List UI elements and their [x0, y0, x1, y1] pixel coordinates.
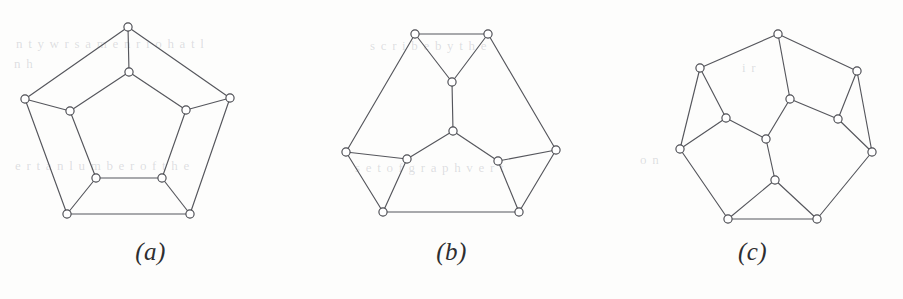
graph-edge [190, 98, 230, 214]
graph-edge [162, 178, 190, 214]
vertex-group [342, 30, 560, 216]
figure-caption: (a) [0, 238, 301, 266]
graph-vertex-outer-bottom-left [63, 210, 71, 218]
graph-vertex-inner-upper-left [722, 114, 730, 122]
figure-caption: (c) [602, 238, 903, 266]
graph-edge [383, 159, 407, 212]
graph-vertex-inner-center [762, 135, 770, 143]
graph-vertex-outer-right [552, 146, 560, 154]
graph-edge [452, 82, 453, 131]
heptagonal-dodecahedral-graph [602, 0, 903, 240]
graph-edge [70, 111, 96, 178]
graph-edge [519, 150, 556, 212]
graph-vertex-outer-left [676, 145, 684, 153]
graph-edge [129, 72, 186, 110]
graph-edge [128, 27, 129, 72]
graph-vertex-inner-top [125, 68, 133, 76]
graph-vertex-inner-left [66, 107, 74, 115]
graph-edge [407, 131, 453, 159]
graph-vertex-outer-top [774, 30, 782, 38]
graph-edge [67, 178, 96, 214]
graph-vertex-outer-top [124, 23, 132, 31]
graph-vertex-inner-right [182, 106, 190, 114]
graph-edge [498, 161, 519, 212]
graph-edge [488, 34, 556, 150]
graph-vertex-outer-right [226, 94, 234, 102]
vertex-group [21, 23, 234, 218]
graph-edge [726, 118, 766, 139]
graph-edge [700, 34, 778, 68]
graph-vertex-inner-left [403, 155, 411, 163]
graph-vertex-inner-bottom-left [92, 174, 100, 182]
edge-group [346, 34, 556, 212]
graph-edge [452, 34, 488, 82]
graph-vertex-inner-upper [786, 95, 794, 103]
panel-a: (a) [0, 0, 301, 299]
graph-edge [25, 99, 70, 111]
pentagonal-prism-graph [0, 0, 301, 240]
graph-edge [25, 27, 128, 99]
graph-vertex-outer-left [342, 148, 350, 156]
graph-vertex-outer-bottom-left [379, 208, 387, 216]
panel-b: (b) [301, 0, 602, 299]
graph-edge [346, 34, 415, 152]
graph-edge [25, 99, 67, 214]
graph-vertex-outer-bottom-left [724, 215, 732, 223]
graph-edge [680, 68, 700, 149]
graph-vertex-outer-bottom-right [515, 208, 523, 216]
panel-c: (c) [602, 0, 903, 299]
graph-vertex-outer-bottom-right [186, 210, 194, 218]
graph-edge [498, 150, 556, 161]
graph-edge [817, 152, 872, 219]
graph-edge [128, 27, 230, 98]
graph-vertex-inner-lower [771, 176, 779, 184]
graph-vertex-inner-top [448, 78, 456, 86]
graph-vertex-outer-upper-left [696, 64, 704, 72]
graph-vertex-outer-upper-right [853, 67, 861, 75]
graph-edge [728, 180, 775, 219]
figure-plate: n t y w r s a m e n r i o h a t ln he r … [0, 0, 903, 299]
graph-edge [766, 139, 775, 180]
graph-edge [680, 149, 728, 219]
graph-edge [790, 99, 838, 119]
graph-edge [415, 34, 452, 82]
graph-edge [838, 71, 857, 119]
hexagonal-three-spoke-graph [301, 0, 602, 240]
graph-edge [346, 152, 383, 212]
graph-edge [70, 72, 129, 111]
graph-vertex-inner-upper-right [834, 115, 842, 123]
edge-group [680, 34, 872, 219]
graph-edge [766, 99, 790, 139]
graph-edge [186, 98, 230, 110]
graph-vertex-inner-right [494, 157, 502, 165]
graph-edge [700, 68, 726, 118]
graph-vertex-outer-bottom-right [813, 215, 821, 223]
edge-group [25, 27, 230, 214]
graph-vertex-outer-top-left [411, 30, 419, 38]
graph-edge [162, 110, 186, 178]
figure-caption: (b) [301, 238, 602, 266]
graph-edge [775, 180, 817, 219]
graph-edge [778, 34, 857, 71]
graph-vertex-outer-top-right [484, 30, 492, 38]
graph-vertex-center [449, 127, 457, 135]
graph-vertex-outer-left [21, 95, 29, 103]
graph-edge [778, 34, 790, 99]
graph-vertex-inner-bottom-right [158, 174, 166, 182]
graph-edge [346, 152, 407, 159]
graph-edge [453, 131, 498, 161]
graph-vertex-outer-right [868, 148, 876, 156]
